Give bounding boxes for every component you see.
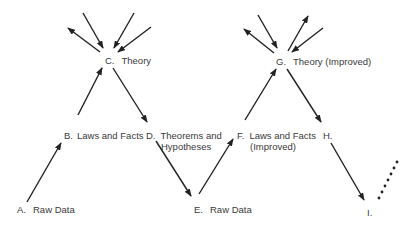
node-text: Laws and Facts bbox=[77, 130, 144, 141]
node-letter: A. bbox=[17, 204, 26, 215]
arrow-c-to-d bbox=[113, 68, 147, 122]
node-text: Raw Data bbox=[33, 204, 75, 215]
node-letter: I. bbox=[367, 207, 372, 218]
node-letter: E. bbox=[194, 204, 203, 215]
node-i: I. bbox=[367, 207, 372, 218]
node-letter: H. bbox=[323, 130, 333, 141]
node-letter: B. bbox=[64, 130, 73, 141]
node-text: Raw Data bbox=[210, 204, 252, 215]
node-text: Theory (Improved) bbox=[293, 56, 371, 67]
node-letter: G. bbox=[276, 56, 286, 67]
arrow-c-in-topleft bbox=[83, 13, 103, 48]
node-h: H. bbox=[323, 130, 333, 141]
node-letter: D. bbox=[146, 130, 156, 141]
arrow-a-to-b bbox=[27, 143, 61, 202]
arrow-b-to-c bbox=[78, 68, 102, 115]
arrow-h-to-i bbox=[331, 143, 364, 200]
node-a: A.Raw Data bbox=[17, 204, 75, 215]
node-b: B.Laws and Facts bbox=[64, 130, 144, 141]
node-f: F.Laws and Facts (Improved) bbox=[237, 130, 316, 152]
arrow-g-to-h bbox=[287, 69, 321, 122]
node-d: D.Theorems and Hypotheses bbox=[146, 130, 222, 152]
node-c: C.Theory bbox=[105, 55, 151, 66]
arrow-g-out-upright bbox=[288, 16, 308, 51]
arrow-g-out-left bbox=[244, 29, 274, 53]
node-text-line2: (Improved) bbox=[250, 141, 296, 152]
arrow-f-to-g bbox=[245, 69, 276, 120]
arrow-c-in-right bbox=[118, 27, 151, 52]
node-text: Theory bbox=[122, 55, 152, 66]
diagram-arrows bbox=[0, 0, 414, 227]
arrow-c-out-left bbox=[68, 28, 100, 52]
dotted-continuation bbox=[378, 161, 399, 200]
scientific-method-diagram: A.Raw Data B.Laws and Facts C.Theory D.T… bbox=[0, 0, 414, 227]
node-g: G.Theory (Improved) bbox=[276, 56, 371, 67]
node-letter: C. bbox=[105, 55, 115, 66]
node-text: Theorems and bbox=[161, 130, 222, 141]
arrow-g-in-right bbox=[292, 28, 323, 52]
node-text-line2: Hypotheses bbox=[161, 141, 211, 152]
node-e: E.Raw Data bbox=[194, 204, 252, 215]
node-text: Laws and Facts bbox=[249, 130, 316, 141]
node-letter: F. bbox=[237, 130, 244, 141]
